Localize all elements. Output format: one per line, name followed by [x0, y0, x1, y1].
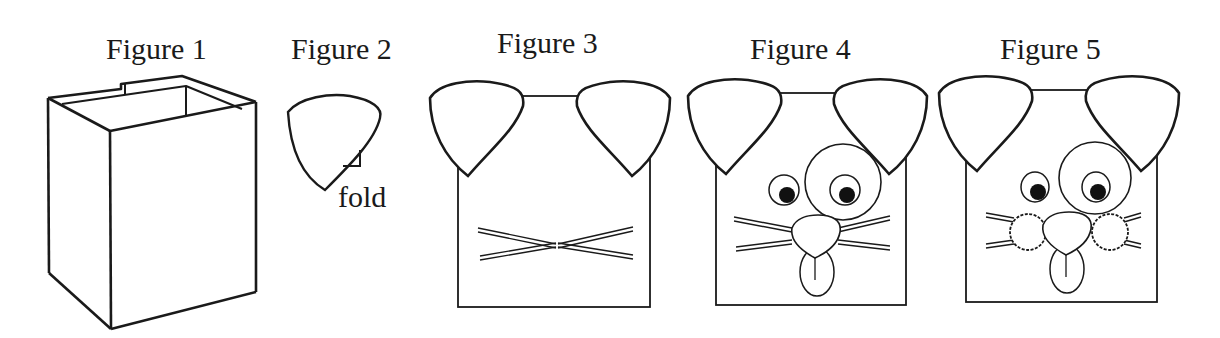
figure-5-dog-face [939, 76, 1179, 302]
left-ear [939, 76, 1032, 171]
nose [792, 215, 841, 258]
left-ear [430, 81, 523, 176]
left-pupil [1030, 184, 1046, 200]
figure-4-dog-face [688, 79, 927, 305]
right-pupil [839, 187, 855, 203]
figure-3-head [430, 81, 670, 307]
crossed-whiskers [478, 227, 633, 260]
figure-1-box [48, 76, 256, 329]
left-pompom [1010, 214, 1046, 250]
left-pupil [779, 187, 795, 203]
right-pupil [1090, 184, 1106, 200]
left-ear [688, 79, 781, 174]
nose [1043, 212, 1092, 255]
figure-2-ear [288, 95, 380, 190]
diagram-canvas [0, 0, 1220, 338]
right-pompom [1092, 214, 1128, 250]
right-ear [577, 81, 670, 176]
